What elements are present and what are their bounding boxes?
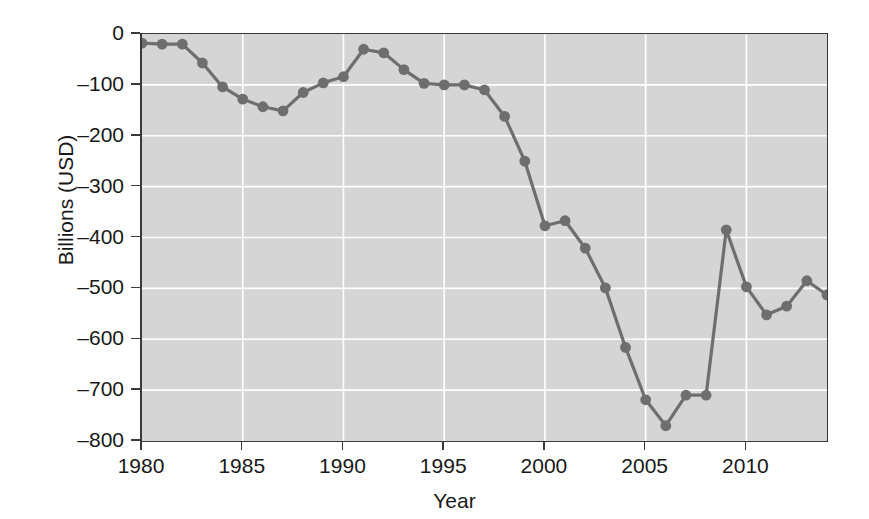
x-axis-tick-label: 2005 bbox=[600, 455, 690, 476]
data-point bbox=[620, 342, 631, 353]
data-point bbox=[479, 85, 490, 96]
x-axis-tick-label: 1980 bbox=[96, 455, 186, 476]
data-point bbox=[721, 224, 732, 235]
y-axis-tick-label: 0 bbox=[38, 22, 124, 43]
data-point bbox=[278, 105, 289, 116]
data-point bbox=[142, 38, 147, 49]
chart-figure: Billions (USD) 0–100–200–300–400–500–600… bbox=[0, 0, 869, 519]
data-series bbox=[142, 38, 827, 431]
data-point bbox=[519, 156, 530, 167]
plot-area bbox=[141, 33, 828, 442]
x-axis-tick bbox=[342, 441, 344, 450]
series-markers bbox=[142, 38, 827, 431]
x-axis-tick-label: 2010 bbox=[700, 455, 790, 476]
data-point bbox=[237, 94, 248, 105]
y-axis-tick-label: –700 bbox=[38, 378, 124, 399]
data-point bbox=[358, 44, 369, 55]
y-axis-tick bbox=[131, 439, 140, 441]
y-axis-tick bbox=[131, 83, 140, 85]
x-axis-title: Year bbox=[0, 489, 869, 513]
data-point bbox=[177, 39, 188, 50]
x-axis-tick-label: 1990 bbox=[297, 455, 387, 476]
data-point bbox=[540, 220, 551, 231]
data-point bbox=[338, 71, 349, 82]
data-point bbox=[459, 79, 470, 90]
y-axis-tick-label: –800 bbox=[38, 429, 124, 450]
data-point bbox=[640, 394, 651, 405]
data-point bbox=[197, 58, 208, 69]
plot-svg bbox=[142, 34, 827, 441]
data-point bbox=[801, 275, 812, 286]
data-point bbox=[439, 79, 450, 90]
y-axis-labels: Billions (USD) 0–100–200–300–400–500–600… bbox=[34, 0, 124, 519]
y-axis-tick-label: –500 bbox=[38, 276, 124, 297]
data-point bbox=[681, 390, 692, 401]
data-point bbox=[701, 390, 712, 401]
y-axis-tick-label: –300 bbox=[38, 175, 124, 196]
x-axis-tick-label: 2000 bbox=[499, 455, 589, 476]
x-axis-tick bbox=[543, 441, 545, 450]
data-point bbox=[580, 243, 591, 254]
y-axis-tick-label: –100 bbox=[38, 73, 124, 94]
data-point bbox=[318, 77, 329, 88]
y-axis-tick bbox=[131, 236, 140, 238]
data-point bbox=[781, 301, 792, 312]
y-axis-tick-label: –600 bbox=[38, 327, 124, 348]
data-point bbox=[378, 47, 389, 58]
data-point bbox=[499, 111, 510, 122]
data-point bbox=[399, 64, 410, 75]
data-point bbox=[741, 281, 752, 292]
x-axis-tick bbox=[241, 441, 243, 450]
data-point bbox=[217, 82, 228, 93]
x-axis-tick bbox=[644, 441, 646, 450]
data-point bbox=[298, 87, 309, 98]
y-axis-tick bbox=[131, 287, 140, 289]
data-point bbox=[660, 420, 671, 431]
data-point bbox=[157, 39, 168, 50]
data-point bbox=[600, 282, 611, 293]
x-axis-tick-label: 1985 bbox=[197, 455, 287, 476]
y-axis-tick bbox=[131, 32, 140, 34]
data-point bbox=[419, 78, 430, 89]
x-axis-tick bbox=[442, 441, 444, 450]
y-axis-tick-label: –400 bbox=[38, 226, 124, 247]
x-axis-tick bbox=[140, 441, 142, 450]
y-axis-tick bbox=[131, 388, 140, 390]
y-axis-tick-label: –200 bbox=[38, 124, 124, 145]
data-point bbox=[761, 309, 772, 320]
data-point bbox=[560, 215, 571, 226]
y-axis-tick bbox=[131, 134, 140, 136]
x-axis-tick bbox=[745, 441, 747, 450]
y-axis-tick bbox=[131, 338, 140, 340]
data-point bbox=[257, 101, 268, 112]
y-axis-tick bbox=[131, 185, 140, 187]
x-axis-tick-label: 1995 bbox=[398, 455, 488, 476]
